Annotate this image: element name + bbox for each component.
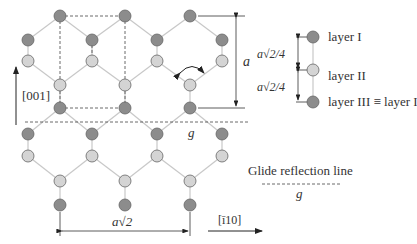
atom-layer2 [151, 150, 163, 162]
atom-layer2 [22, 55, 34, 67]
atom-layer1 [216, 34, 228, 46]
atom-layer1 [184, 102, 196, 114]
atom-layer2 [184, 175, 196, 187]
atom-layer2 [184, 79, 196, 91]
dimension-a-sqrt2-label: a√2 [112, 214, 133, 229]
legend-layer2-atom [307, 64, 319, 76]
atom-layer2 [119, 79, 131, 91]
atom-layer1 [22, 34, 34, 46]
glide-legend-symbol: g [296, 186, 303, 201]
atom-layer2 [151, 55, 163, 67]
atom-layer1 [86, 34, 98, 46]
atom-layer2 [119, 175, 131, 187]
rotation-arrow-icon [180, 67, 204, 74]
legend-layer2-label: layer II [328, 68, 366, 83]
direction-110-label: [ī10] [218, 213, 241, 227]
atom-layer1 [119, 199, 131, 211]
layer-legend: a√2/4 a√2/4 layer I layer II layer III ≡… [257, 29, 417, 109]
atom-layer1 [54, 199, 66, 211]
legend-spacing-1: a√2/4 [257, 47, 285, 61]
atom-layer2 [86, 150, 98, 162]
legend-layer1-atom [307, 31, 319, 43]
atom-layer2 [54, 79, 66, 91]
legend-spacing-2: a√2/4 [257, 80, 285, 94]
atom-layer1 [86, 128, 98, 140]
atom-layer1 [216, 128, 228, 140]
atom-layer1 [151, 128, 163, 140]
atom-layer1 [54, 102, 66, 114]
atom-layer1 [119, 10, 131, 22]
atom-layer2 [86, 55, 98, 67]
atom-layer1 [22, 128, 34, 140]
atom-layer1 [151, 34, 163, 46]
atom-layer2 [216, 150, 228, 162]
legend-layer3-label: layer III ≡ layer I [328, 94, 417, 109]
glide-reflection-diagram: g a [001] a√2 [ī10] a√2/4 a√2/4 [0, 0, 417, 244]
atom-layer2 [216, 55, 228, 67]
atom-layer1 [184, 10, 196, 22]
atoms [22, 10, 228, 211]
atom-layer1 [184, 199, 196, 211]
dimension-a-label: a [243, 54, 250, 69]
atom-layer2 [22, 150, 34, 162]
atom-layer1 [54, 10, 66, 22]
legend-layer3-atom [307, 96, 319, 108]
glide-line-label: g [188, 125, 195, 140]
atom-layer1 [119, 102, 131, 114]
legend-layer1-label: layer I [328, 29, 362, 44]
glide-legend: Glide reflection line g [248, 163, 353, 201]
atom-layer2 [54, 175, 66, 187]
direction-001-label: [001] [22, 88, 50, 103]
glide-legend-title: Glide reflection line [248, 163, 353, 178]
